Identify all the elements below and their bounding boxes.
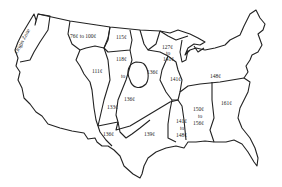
us-freight-rate-map: Origin Zone 76¢ to 100¢ 115¢ 111¢ 118¢ t… xyxy=(0,0,282,187)
zone-label-mississippi-mid: to xyxy=(180,125,184,131)
zone-label-alabama-georgia-bottom: 156¢ xyxy=(193,120,204,126)
zone-label-northeast: 148¢ xyxy=(210,73,221,79)
zone-label-iowa-island: 136¢ xyxy=(147,69,158,75)
zone-label-central: 136¢ xyxy=(124,96,135,102)
zone-label-alabama-georgia-top: 150¢ xyxy=(193,106,204,112)
zone-label-texas: 139¢ xyxy=(144,131,155,137)
zone-label-plains-mid: to xyxy=(121,73,125,79)
zone-label-plains-top: 118¢ xyxy=(116,56,127,62)
zone-label-mountain: 111¢ xyxy=(92,68,103,74)
zone-label-mississippi-bottom: 148¢ xyxy=(176,132,187,138)
zone-label-southeast: 161¢ xyxy=(221,100,232,106)
us-outline-map xyxy=(0,0,282,187)
zone-label-upper-midwest-bottom: 141¢ xyxy=(163,56,174,62)
zone-label-southwest: 136¢ xyxy=(103,131,114,137)
zone-label-northwest: 76¢ to 100¢ xyxy=(70,33,96,39)
zone-label-mississippi-top: 141¢ xyxy=(176,118,187,124)
zone-label-alabama-georgia-mid: to xyxy=(198,113,202,119)
zone-label-illinois: 141¢ xyxy=(170,76,181,82)
zone-label-plains-bottom: 133¢ xyxy=(107,104,118,110)
zone-label-north-plains: 115¢ xyxy=(116,34,127,40)
us-border xyxy=(15,10,265,178)
